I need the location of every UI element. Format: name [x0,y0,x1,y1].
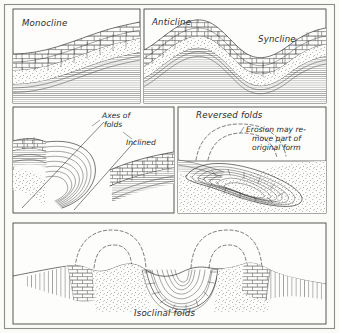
axes-of-folds-panel: Axes of folds Inclined [13,107,174,213]
anticline-syncline-panel: Anticline Syncline [144,9,326,103]
erosion-note-line1: Erosion may re- [246,125,306,134]
axes-of-folds-label-line1: Axes of [101,111,131,120]
monocline-label: Monocline [22,18,67,28]
anticline-label: Anticline [151,17,191,27]
erosion-note-line2: move part of [252,134,302,143]
limestone-band-right [242,263,270,300]
reversed-folds-panel: Reversed folds Erosion may re- move part… [178,107,326,213]
folds-figure: Monocline [0,0,339,333]
monocline-panel: Monocline [13,9,140,103]
isoclinal-folds-panel: Isoclinal folds [13,223,326,324]
reversed-folds-label: Reversed folds [196,110,263,120]
syncline-label: Syncline [258,34,296,44]
erosion-note-line3: original form [252,143,301,152]
axes-of-folds-label-line2: folds [104,120,122,129]
inclined-label: Inclined [126,138,156,147]
isoclinal-folds-label: Isoclinal folds [134,308,196,318]
